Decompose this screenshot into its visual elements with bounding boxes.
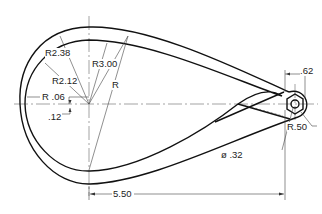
label-hub-width: .62	[300, 66, 313, 76]
label-r212: R2.12	[52, 76, 77, 86]
drawing-canvas	[0, 0, 322, 214]
label-r06: R .06	[42, 92, 65, 102]
label-hub-radius: R.50	[287, 122, 307, 132]
label-offset-12: .12	[48, 112, 61, 122]
label-center-distance: 5.50	[113, 189, 132, 199]
label-r: R	[112, 80, 119, 90]
arm-lower-edge	[238, 104, 290, 119]
centerlines	[14, 16, 318, 196]
label-r238: R2.38	[45, 48, 70, 58]
label-hole-dia: ø .32	[221, 150, 243, 160]
label-r300: R3.00	[92, 59, 117, 69]
dimension-lines	[27, 36, 317, 200]
